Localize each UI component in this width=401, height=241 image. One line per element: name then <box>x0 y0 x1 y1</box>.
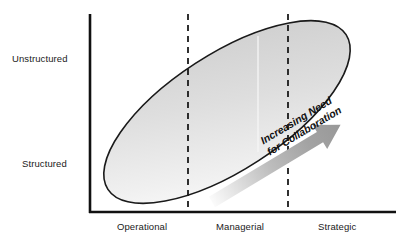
x-axis-label-managerial: Managerial <box>216 221 264 232</box>
x-axis-label-operational: Operational <box>117 221 167 232</box>
y-axis-label-unstructured: Unstructured <box>12 53 68 64</box>
x-axis-label-strategic: Strategic <box>318 221 356 232</box>
diagram-container: Unstructured Structured Operational Mana… <box>0 0 401 241</box>
diagram-canvas <box>0 0 401 241</box>
y-axis-label-structured: Structured <box>22 158 67 169</box>
